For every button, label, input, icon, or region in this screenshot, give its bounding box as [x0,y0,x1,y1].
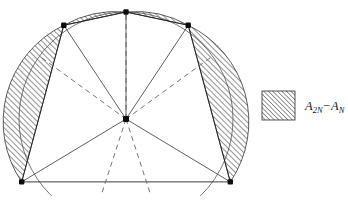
vertex-dot-lower-left [19,179,24,184]
vertex-dot-top [123,9,128,14]
legend-label-minus: − [323,99,331,113]
figure-root: A2N−AN [0,0,348,214]
vertex-dot-upper-left [61,23,66,28]
legend-label-a1: A [304,99,313,113]
vertex-dot-lower-right [228,179,233,184]
geometry-diagram: A2N−AN [0,0,348,214]
legend-hatched-swatch [262,91,295,120]
center-dot [123,116,129,122]
legend-label-a2: A [330,99,339,113]
bottom-clip-mask [0,196,348,214]
vertex-dot-upper-right [186,23,191,28]
